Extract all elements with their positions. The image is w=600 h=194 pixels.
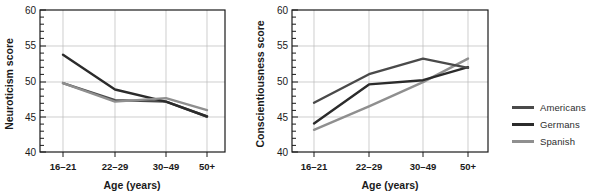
x-category-label-2: 30–49 bbox=[410, 161, 436, 172]
neuroticism-chart-svg: Neuroticism score 60 55 50 45 40 bbox=[0, 0, 250, 194]
y-tick-label-60: 60 bbox=[25, 5, 37, 16]
x-axis-title: Age (years) bbox=[103, 179, 160, 191]
legend-swatch-germans bbox=[512, 123, 534, 126]
legend-item-germans: Germans bbox=[512, 116, 600, 133]
plot-frame bbox=[40, 10, 225, 152]
vertical-gridlines bbox=[63, 10, 207, 152]
legend-item-americans: Americans bbox=[512, 99, 600, 116]
y-tick-label-50: 50 bbox=[25, 76, 37, 87]
legend-swatch-americans bbox=[512, 106, 534, 109]
legend-label-spanish: Spanish bbox=[540, 136, 575, 147]
figure: Neuroticism score 60 55 50 45 40 bbox=[0, 0, 600, 194]
x-axis-ticks bbox=[63, 152, 207, 157]
series-line-spanish bbox=[63, 83, 207, 110]
y-tick-label-45: 45 bbox=[277, 112, 289, 123]
chart-panel-conscientiousness: Conscientiousness score 60 55 50 45 40 bbox=[250, 0, 500, 194]
x-category-label-0: 16–21 bbox=[301, 161, 328, 172]
y-tick-label-60: 60 bbox=[277, 5, 289, 16]
legend-label-americans: Americans bbox=[540, 102, 586, 113]
legend-swatch-spanish bbox=[512, 140, 534, 143]
y-axis-ticks bbox=[292, 10, 298, 152]
series-line-germans bbox=[63, 55, 207, 117]
x-category-label-0: 16–21 bbox=[50, 161, 77, 172]
x-category-label-3: 50+ bbox=[199, 161, 216, 172]
chart-panel-neuroticism: Neuroticism score 60 55 50 45 40 bbox=[0, 0, 250, 194]
horizontal-gridlines bbox=[292, 46, 488, 117]
x-category-label-2: 30–49 bbox=[153, 161, 179, 172]
series-line-spanish bbox=[314, 59, 468, 130]
legend-item-spanish: Spanish bbox=[512, 133, 600, 150]
y-tick-label-55: 55 bbox=[277, 40, 289, 51]
chart-legend: Americans Germans Spanish bbox=[512, 99, 600, 151]
y-axis-title: Conscientiousness score bbox=[254, 20, 266, 147]
y-axis-title: Neuroticism score bbox=[3, 38, 15, 130]
x-category-label-1: 22–29 bbox=[356, 161, 382, 172]
y-axis-ticks bbox=[40, 10, 46, 152]
legend-label-germans: Germans bbox=[540, 119, 580, 130]
y-tick-label-55: 55 bbox=[25, 40, 37, 51]
x-category-label-3: 50+ bbox=[460, 161, 477, 172]
plot-frame bbox=[292, 10, 488, 152]
x-axis-title: Age (years) bbox=[361, 179, 418, 191]
y-tick-label-50: 50 bbox=[277, 76, 289, 87]
vertical-gridlines bbox=[314, 10, 468, 152]
y-tick-label-40: 40 bbox=[277, 147, 289, 158]
x-axis-ticks bbox=[314, 152, 468, 157]
conscientiousness-chart-svg: Conscientiousness score 60 55 50 45 40 bbox=[250, 0, 500, 194]
y-tick-label-45: 45 bbox=[25, 112, 37, 123]
x-category-label-1: 22–29 bbox=[102, 161, 128, 172]
y-tick-label-40: 40 bbox=[25, 147, 37, 158]
